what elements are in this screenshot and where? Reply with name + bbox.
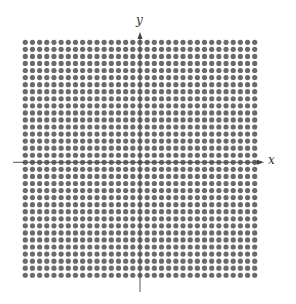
- lattice-dot: [188, 202, 193, 207]
- lattice-dot: [44, 237, 49, 242]
- lattice-dot: [159, 167, 164, 172]
- lattice-dot: [209, 75, 214, 80]
- lattice-dot: [195, 153, 200, 158]
- lattice-dot: [66, 223, 71, 228]
- lattice-dot: [152, 139, 157, 144]
- lattice-dot: [245, 237, 250, 242]
- lattice-dot: [116, 61, 121, 66]
- lattice-dot: [180, 54, 185, 59]
- lattice-dot: [145, 103, 150, 108]
- lattice-dot: [59, 61, 64, 66]
- lattice-dot: [188, 216, 193, 221]
- lattice-dot: [23, 139, 28, 144]
- lattice-dot: [195, 223, 200, 228]
- lattice-dot: [173, 195, 178, 200]
- lattice-dot: [116, 68, 121, 73]
- lattice-dot: [195, 216, 200, 221]
- lattice-dot: [166, 273, 171, 278]
- lattice-dot: [202, 61, 207, 66]
- lattice-dot: [23, 216, 28, 221]
- lattice-dot: [30, 202, 35, 207]
- lattice-dot: [66, 174, 71, 179]
- lattice-dot: [102, 110, 107, 115]
- lattice-dot: [94, 131, 99, 136]
- lattice-dot: [23, 82, 28, 87]
- lattice-dot: [195, 181, 200, 186]
- lattice-dot: [166, 40, 171, 45]
- lattice-dot: [173, 223, 178, 228]
- lattice-dot: [209, 181, 214, 186]
- lattice-dot: [166, 167, 171, 172]
- lattice-dot: [238, 195, 243, 200]
- lattice-dot: [252, 174, 257, 179]
- lattice-dot: [231, 202, 236, 207]
- lattice-dot: [23, 230, 28, 235]
- lattice-dot: [173, 202, 178, 207]
- lattice-dot: [130, 117, 135, 122]
- lattice-dot: [173, 273, 178, 278]
- lattice-dot: [245, 251, 250, 256]
- lattice-dot: [73, 266, 78, 271]
- lattice-dot: [44, 167, 49, 172]
- lattice-dot: [87, 223, 92, 228]
- lattice-dot: [37, 40, 42, 45]
- lattice-dot: [202, 216, 207, 221]
- lattice-dot: [166, 237, 171, 242]
- lattice-dot: [102, 273, 107, 278]
- lattice-dot: [231, 174, 236, 179]
- lattice-dot: [44, 216, 49, 221]
- lattice-dot: [152, 244, 157, 249]
- lattice-dot: [216, 259, 221, 264]
- lattice-dot: [51, 181, 56, 186]
- lattice-dot: [59, 82, 64, 87]
- lattice-dot: [44, 82, 49, 87]
- lattice-dot: [87, 139, 92, 144]
- lattice-dot: [59, 195, 64, 200]
- lattice-dot: [51, 40, 56, 45]
- lattice-dot: [59, 202, 64, 207]
- lattice-dot: [238, 146, 243, 151]
- lattice-dot: [145, 153, 150, 158]
- lattice-dot: [94, 237, 99, 242]
- lattice-dot: [80, 259, 85, 264]
- lattice-dot: [238, 131, 243, 136]
- lattice-dot: [130, 251, 135, 256]
- lattice-dot: [145, 273, 150, 278]
- lattice-dot: [66, 273, 71, 278]
- lattice-dot: [223, 202, 228, 207]
- lattice-dot: [188, 244, 193, 249]
- lattice-dot: [37, 146, 42, 151]
- lattice-dot: [252, 75, 257, 80]
- lattice-dot: [30, 259, 35, 264]
- lattice-dot: [159, 82, 164, 87]
- lattice-dot: [252, 68, 257, 73]
- lattice-dot: [123, 110, 128, 115]
- lattice-dot: [195, 75, 200, 80]
- lattice-dot: [109, 188, 114, 193]
- lattice-dot: [59, 68, 64, 73]
- lattice-dot: [209, 146, 214, 151]
- lattice-dot: [180, 146, 185, 151]
- lattice-dot: [145, 181, 150, 186]
- lattice-dot: [152, 40, 157, 45]
- lattice-dot: [87, 61, 92, 66]
- lattice-dot: [37, 174, 42, 179]
- lattice-dot: [166, 96, 171, 101]
- lattice-dot: [37, 110, 42, 115]
- lattice-dot: [102, 237, 107, 242]
- lattice-dot: [66, 209, 71, 214]
- lattice-dot: [202, 237, 207, 242]
- lattice-dot: [202, 188, 207, 193]
- lattice-dot: [123, 124, 128, 129]
- lattice-dot: [152, 174, 157, 179]
- lattice-dot: [37, 54, 42, 59]
- lattice-dot: [145, 139, 150, 144]
- lattice-dot: [37, 61, 42, 66]
- lattice-dot: [195, 61, 200, 66]
- lattice-dot: [145, 216, 150, 221]
- lattice-dot: [209, 103, 214, 108]
- lattice-dot: [245, 54, 250, 59]
- lattice-dot: [73, 103, 78, 108]
- lattice-dot: [159, 47, 164, 52]
- lattice-dot: [180, 103, 185, 108]
